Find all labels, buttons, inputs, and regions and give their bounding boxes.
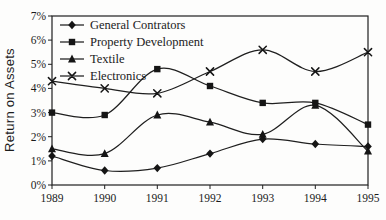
square-marker-icon [207,83,213,89]
x-axis-tick-label: 1995 [357,192,380,204]
line-chart-canvas: 0%1%2%3%4%5%6%7%198919901991199219931994… [0,0,386,220]
x-axis-tick-label: 1993 [251,192,274,204]
y-axis-tick-label: 1% [31,155,47,167]
legend-marker-square [69,39,75,45]
data-point-property-development-1995 [365,121,371,127]
series-line-textile [52,105,368,155]
x-axis-tick-label: 1990 [93,192,116,204]
data-point-property-development-1990 [102,112,108,118]
legend-item-general-contrators: General Contrators [60,18,186,32]
legend-marker-diamond [68,21,76,29]
y-axis-tick-label: 4% [31,82,47,94]
legend-item-property-development: Property Development [60,35,204,49]
data-point-general-contrators-1991 [154,164,162,172]
diamond-marker-icon [312,140,320,148]
data-point-property-development-1989 [49,109,55,115]
data-point-property-development-1992 [207,83,213,89]
y-axis-tick-label: 7% [31,10,47,22]
legend-label-property-development: Property Development [90,35,204,49]
diamond-marker-icon [48,152,56,160]
data-point-general-contrators-1990 [101,166,109,174]
y-axis-tick-label: 5% [31,58,47,70]
diamond-marker-icon [154,164,162,172]
data-point-property-development-1993 [260,100,266,106]
y-axis-tick-label: 2% [31,131,47,143]
square-marker-icon [260,100,266,106]
square-marker-icon [49,109,55,115]
square-marker-icon [365,121,371,127]
y-axis-tick-label: 6% [31,34,47,46]
data-point-property-development-1991 [154,66,160,72]
diamond-marker-icon [68,21,76,29]
data-point-general-contrators-1992 [206,149,214,157]
diamond-marker-icon [101,166,109,174]
data-point-electronics-1992 [206,68,213,75]
x-axis-tick-label: 1991 [146,192,169,204]
data-point-general-contrators-1989 [48,152,56,160]
y-axis-tick-label: 0% [31,179,47,191]
legend-item-electronics: Electronics [60,69,146,83]
square-marker-icon [102,112,108,118]
roa-line-chart-figure: Return on Assets 0%1%2%3%4%5%6%7%1989199… [0,0,386,220]
y-axis-tick-label: 3% [31,107,47,119]
square-marker-icon [69,39,75,45]
legend-label-general-contrators: General Contrators [90,18,186,32]
legend-label-electronics: Electronics [90,69,146,83]
x-axis-tick-label: 1989 [41,192,64,204]
x-axis-tick-label: 1994 [304,192,327,204]
data-point-textile-1989 [48,144,56,152]
x-axis-tick-label: 1992 [199,192,222,204]
legend-item-textile: Textile [60,52,125,66]
series-textile [48,101,372,157]
diamond-marker-icon [206,149,214,157]
data-point-general-contrators-1994 [312,140,320,148]
x-marker-icon [206,68,213,75]
legend-label-textile: Textile [90,52,125,66]
square-marker-icon [154,66,160,72]
triangle-marker-icon [48,144,56,152]
